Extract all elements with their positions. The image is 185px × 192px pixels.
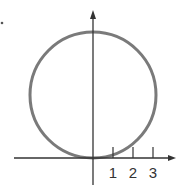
diagram-canvas: 1 2 3: [0, 0, 185, 192]
x-tick-label-3: 3: [149, 164, 157, 181]
x-axis-arrow-icon: [168, 155, 176, 161]
x-tick-label-1: 1: [109, 164, 117, 181]
x-tick-label-2: 2: [129, 164, 137, 181]
y-axis-arrow-icon: [90, 10, 96, 19]
marker-dot: [1, 22, 4, 25]
